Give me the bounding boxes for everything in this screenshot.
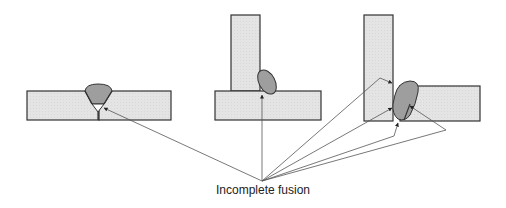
leader-corner-bottom (262, 123, 398, 181)
t-vertical-plate (231, 15, 260, 91)
t-joint (215, 15, 321, 120)
t-horizontal-plate (215, 91, 321, 120)
weld-diagram (0, 0, 506, 208)
incomplete-fusion-label: Incomplete fusion (0, 183, 506, 197)
butt-joint (27, 84, 171, 120)
corner-vertical-plate (364, 15, 393, 121)
corner-joint (364, 15, 480, 121)
